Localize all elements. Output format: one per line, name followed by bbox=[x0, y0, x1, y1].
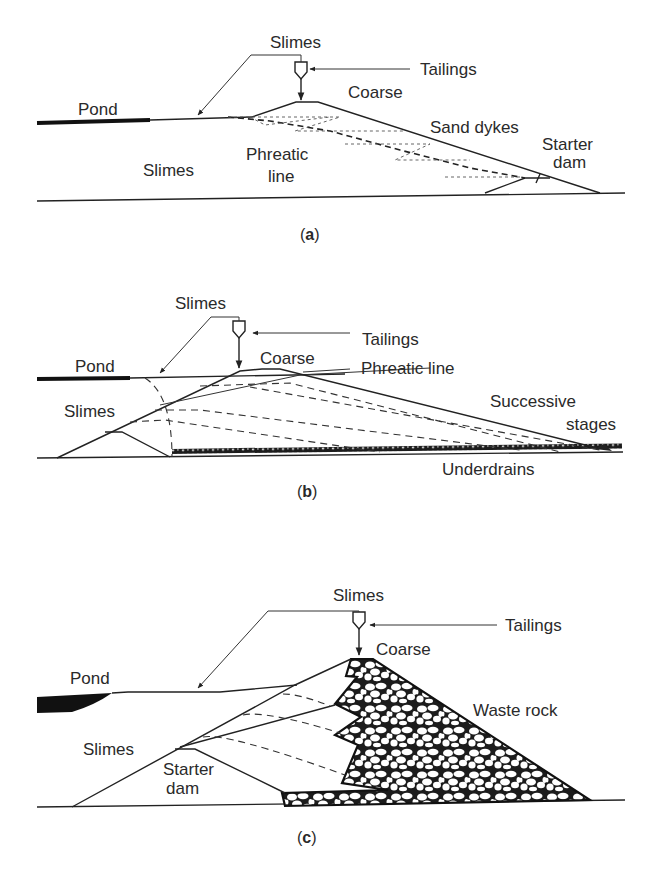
cyclone-separator-icon bbox=[233, 321, 245, 368]
ground-line bbox=[37, 193, 625, 201]
panel-a: Slimes Tailings Pond Coarse Sand dykes S… bbox=[37, 33, 625, 243]
cyclone-separator-icon bbox=[295, 62, 307, 100]
stage-line-2 bbox=[155, 410, 520, 450]
label-tailings: Tailings bbox=[420, 60, 477, 79]
phreatic-curve bbox=[145, 378, 172, 457]
label-tailings: Tailings bbox=[362, 330, 419, 349]
pond-water bbox=[37, 693, 112, 713]
label-stages: stages bbox=[566, 415, 616, 434]
label-pond: Pond bbox=[75, 357, 115, 376]
label-underdrains: Underdrains bbox=[442, 460, 535, 479]
label-slimes-body: Slimes bbox=[64, 402, 115, 421]
pond-surface bbox=[37, 120, 150, 123]
label-successive: Successive bbox=[490, 392, 576, 411]
slimes-leader-arrow bbox=[198, 611, 359, 688]
dam-inner-slope bbox=[72, 659, 351, 807]
stage-slope bbox=[180, 705, 335, 747]
label-dam: dam bbox=[166, 779, 199, 798]
label-slimes-body: Slimes bbox=[83, 740, 134, 759]
starter-dam bbox=[485, 178, 550, 193]
phreatic-leader bbox=[303, 369, 350, 372]
label-pond: Pond bbox=[78, 100, 118, 119]
tailings-dam-diagram: Slimes Tailings Pond Coarse Sand dykes S… bbox=[0, 0, 660, 871]
panel-c: Slimes Tailings Coarse Pond Waste rock S… bbox=[37, 586, 625, 846]
label-phreatic: Phreatic bbox=[246, 145, 309, 164]
label-coarse: Coarse bbox=[376, 640, 431, 659]
caption-a: (a) bbox=[300, 226, 320, 243]
inner-stage-line bbox=[160, 375, 300, 405]
slimes-surface bbox=[112, 685, 297, 693]
caption-b: (b) bbox=[297, 483, 317, 500]
label-tailings: Tailings bbox=[505, 616, 562, 635]
phreatic-dash-3 bbox=[203, 736, 345, 775]
phreatic-dash-1 bbox=[283, 694, 330, 706]
waste-rock-fill bbox=[282, 659, 590, 806]
label-waste-rock: Waste rock bbox=[473, 701, 558, 720]
panel-b: Slimes Tailings Pond Coarse Phreatic lin… bbox=[37, 294, 623, 500]
label-dam: dam bbox=[553, 153, 586, 172]
label-phreatic-line: Phreatic line bbox=[361, 359, 455, 378]
label-starter: Starter bbox=[163, 760, 214, 779]
label-slimes-body: Slimes bbox=[143, 161, 194, 180]
label-slimes-top: Slimes bbox=[270, 33, 321, 52]
pond-surface bbox=[37, 378, 130, 379]
label-sand-dykes: Sand dykes bbox=[430, 118, 519, 137]
label-slimes-top: Slimes bbox=[175, 294, 226, 313]
label-coarse: Coarse bbox=[348, 83, 403, 102]
label-slimes-top: Slimes bbox=[333, 586, 384, 605]
label-pond: Pond bbox=[70, 669, 110, 688]
label-line: line bbox=[268, 167, 294, 186]
caption-c: (c) bbox=[297, 829, 317, 846]
label-coarse: Coarse bbox=[260, 349, 315, 368]
slimes-leader-arrow bbox=[160, 317, 239, 373]
label-starter: Starter bbox=[542, 135, 593, 154]
starter-dam bbox=[105, 432, 170, 457]
cyclone-separator-icon bbox=[353, 612, 365, 655]
ground-line bbox=[37, 452, 623, 458]
